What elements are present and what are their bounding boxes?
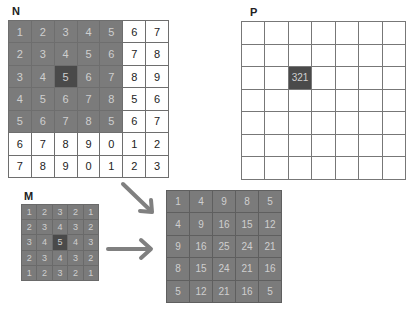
arrow-icon-horizontal xyxy=(108,240,151,258)
arrow-icon-diagonal xyxy=(123,184,152,212)
arrows xyxy=(0,0,415,313)
